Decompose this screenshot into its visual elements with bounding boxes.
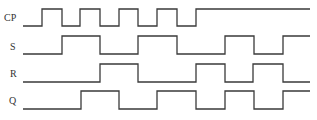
signal-r: R: [10, 64, 310, 82]
timing-diagram: CP S R Q: [0, 0, 317, 120]
waveform-s: [23, 36, 310, 54]
signal-label-r: R: [10, 68, 17, 79]
timing-diagram-canvas: CP S R Q: [0, 0, 317, 120]
waveform-r: [23, 64, 310, 82]
waveform-cp: [23, 9, 310, 26]
signal-cp: CP: [4, 9, 310, 26]
signal-label-q: Q: [9, 95, 17, 106]
signal-label-s: S: [10, 41, 16, 52]
signal-s: S: [10, 36, 310, 54]
waveform-q: [23, 91, 310, 109]
signal-label-cp: CP: [4, 12, 17, 23]
signal-q: Q: [9, 91, 310, 109]
